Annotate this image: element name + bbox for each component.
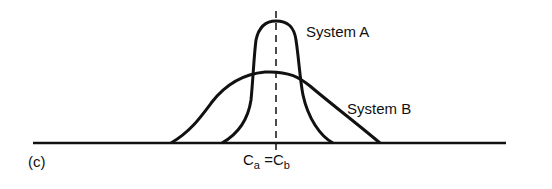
ca-symbol: C	[243, 151, 254, 168]
cb-subscript: b	[284, 159, 290, 171]
system-b-label: System B	[347, 100, 411, 117]
panel-label: (c)	[28, 153, 46, 170]
system-a-label: System A	[306, 23, 369, 40]
distribution-diagram: System A System B (c) Ca =Cb	[0, 0, 552, 189]
cb-symbol: C	[273, 151, 284, 168]
equals-sign: =	[264, 151, 273, 168]
ca-subscript: a	[254, 159, 260, 171]
center-value-label: Ca =Cb	[243, 151, 290, 168]
